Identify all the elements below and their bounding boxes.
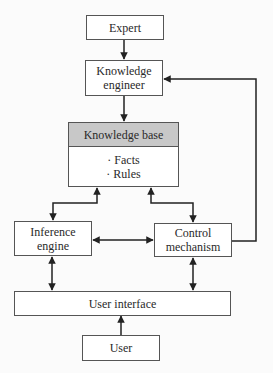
- node-label-line2: mechanism: [166, 240, 221, 254]
- node-user-interface: User interface: [14, 291, 231, 316]
- node-inference-engine: Inference engine: [14, 221, 92, 256]
- node-label: Expert: [109, 21, 141, 35]
- kb-item-rules: · Rules: [106, 167, 140, 181]
- node-control-mechanism: Control mechanism: [154, 223, 232, 257]
- node-label: User: [110, 341, 133, 355]
- node-expert: Expert: [86, 15, 164, 40]
- node-knowledge-engineer: Knowledge engineer: [85, 60, 163, 96]
- node-label-line1: Inference: [30, 225, 75, 239]
- node-user: User: [82, 335, 160, 361]
- node-label-line2: engineer: [103, 78, 144, 92]
- node-label-line1: Control: [175, 226, 212, 240]
- knowledge-base-header: Knowledge base: [69, 123, 178, 147]
- knowledge-base-items: · Facts · Rules: [106, 153, 140, 181]
- node-label-line1: Knowledge: [96, 64, 151, 78]
- kb-item-facts: · Facts: [107, 153, 139, 167]
- arrow-kb-control: [151, 188, 193, 222]
- arrow-kb-inference: [53, 188, 97, 220]
- knowledge-base-title: Knowledge base: [84, 128, 164, 142]
- node-label-line2: engine: [37, 239, 69, 253]
- node-knowledge-base: Knowledge base · Facts · Rules: [68, 122, 179, 187]
- node-label: User interface: [89, 297, 157, 311]
